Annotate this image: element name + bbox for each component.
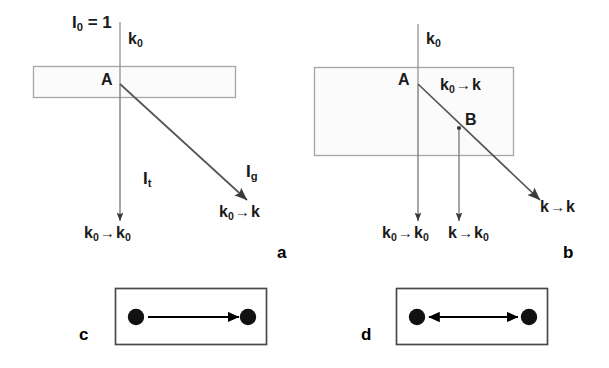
- panel-a-transmitted-intensity-label: It: [143, 170, 151, 187]
- panel-b-out-process-1-label: k0→k0: [382, 225, 429, 241]
- panel-a-incident-wavevector-label: k0: [128, 31, 143, 47]
- panel-a-slab: [34, 67, 236, 98]
- panel-d-graphics: [397, 289, 548, 345]
- panel-b-caption-label: b: [563, 244, 573, 261]
- panel-a-diffracted-arrow: [120, 84, 247, 200]
- panel-a-diffracted-process-label: k0→k: [219, 204, 260, 220]
- scattering-figure: I0 = 1 k0 A It Ig k0→k0 k0→k a k0 A B k0…: [0, 0, 609, 368]
- panel-b-inner-process-label: k0→k: [440, 77, 481, 93]
- panel-a-point-a-label: A: [101, 72, 113, 88]
- panel-b-point-b-label: B: [465, 112, 477, 128]
- panel-b-point-b-marker: [457, 126, 461, 130]
- panel-b-incident-wavevector-label: k0: [426, 31, 441, 47]
- panel-b-slab: [315, 68, 514, 156]
- figure-vector-layer: [0, 0, 609, 368]
- panel-b-point-a-label: A: [398, 72, 410, 88]
- panel-d-caption-label: d: [361, 326, 371, 343]
- panel-c-graphics: [116, 289, 267, 345]
- panel-c-caption-label: c: [79, 326, 88, 343]
- panel-c-node-right: [240, 309, 256, 325]
- panel-c-node-left: [128, 309, 144, 325]
- panel-b-out-process-2-label: k→k0: [448, 225, 489, 241]
- panel-a-incident-intensity-label: I0 = 1: [72, 14, 112, 31]
- panel-a-graphics: [34, 22, 248, 221]
- panel-b-out-process-3-label: k→k: [540, 199, 575, 215]
- panel-d-node-left: [409, 309, 425, 325]
- panel-a-diffracted-intensity-label: Ig: [246, 163, 258, 180]
- panel-b-graphics: [315, 24, 541, 221]
- panel-a-transmitted-process-label: k0→k0: [84, 225, 131, 241]
- panel-d-node-right: [521, 309, 537, 325]
- panel-a-caption-label: a: [277, 244, 286, 261]
